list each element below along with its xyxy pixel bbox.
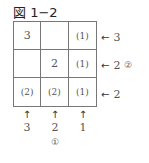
grid-cell-r3c1: (2)	[14, 78, 41, 106]
col-sum: 3	[13, 121, 41, 135]
up-arrow-icon: ↑	[13, 109, 41, 121]
row-sum: 3	[113, 31, 120, 44]
col-sum: 2	[41, 121, 69, 135]
left-arrow-icon: ←	[101, 89, 109, 100]
up-arrow-icon: ↑	[69, 109, 97, 121]
col-label-3: ↑ 1	[69, 109, 97, 135]
grid-cell-r1c3: (1)	[69, 22, 96, 50]
col-label-1: ↑ 3	[13, 109, 41, 135]
left-arrow-icon: ←	[101, 32, 109, 43]
left-arrow-icon: ←	[101, 60, 109, 71]
grid-cell-r1c2	[41, 22, 68, 50]
number-grid: 3 (1) 2 (1) (2) (2) (1)	[13, 21, 97, 107]
col-note: ①	[41, 135, 69, 149]
row-label-2: ← 2 ②	[101, 57, 132, 73]
row-label-3: ← 2	[101, 86, 124, 102]
grid-cell-r2c3: (1)	[69, 50, 96, 78]
figure-title: 図 1−2	[13, 2, 58, 21]
row-sum: 2	[113, 59, 120, 72]
grid-cell-r1c1: 3	[14, 22, 41, 50]
row-note: ②	[124, 60, 132, 70]
grid-cell-r3c2: (2)	[41, 78, 68, 106]
row-sum: 2	[113, 88, 120, 101]
col-label-2: ↑ 2 ①	[41, 109, 69, 149]
col-sum: 1	[69, 121, 97, 135]
row-label-1: ← 3	[101, 29, 124, 45]
grid-cell-r2c2: 2	[41, 50, 68, 78]
up-arrow-icon: ↑	[41, 109, 69, 121]
grid-cell-r2c1	[14, 50, 41, 78]
grid-cell-r3c3: (1)	[69, 78, 96, 106]
